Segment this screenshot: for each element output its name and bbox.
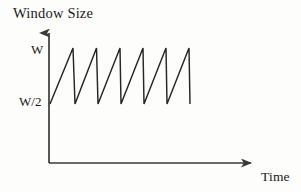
- sawtooth-chart: [0, 0, 301, 192]
- y-tick-label-w-half: W/2: [19, 95, 41, 108]
- x-axis-title: Time: [261, 170, 290, 184]
- y-axis-title: Window Size: [13, 6, 93, 21]
- y-tick-label-w: W: [31, 43, 43, 56]
- figure-container: Window Size Time W W/2: [0, 0, 301, 192]
- congestion-window-series: [50, 48, 190, 104]
